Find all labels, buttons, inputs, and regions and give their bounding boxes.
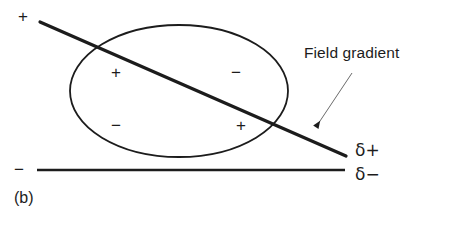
outer-top-charge-label: + xyxy=(18,8,28,25)
outer-bottom-charge-label: − xyxy=(14,161,24,178)
inner-top-right-charge-label: − xyxy=(231,64,241,81)
molecule-ellipse xyxy=(70,25,288,157)
inner-bottom-right-charge-label: + xyxy=(236,117,246,134)
partial-charge-top-label: δ+ xyxy=(355,142,380,159)
inner-top-left-charge-label: + xyxy=(111,64,121,81)
diagram-canvas xyxy=(0,0,450,229)
annotation-leader-arrow-icon xyxy=(316,73,352,127)
inner-bottom-left-charge-label: − xyxy=(111,117,121,134)
field-gradient-annotation-label: Field gradient xyxy=(304,45,399,61)
partial-charge-bottom-label: δ− xyxy=(355,166,380,183)
field-gradient-line xyxy=(40,22,346,156)
panel-label: (b) xyxy=(14,190,34,206)
figure-panel-b: + − + − − + Field gradient δ+ δ− (b) xyxy=(0,0,450,229)
